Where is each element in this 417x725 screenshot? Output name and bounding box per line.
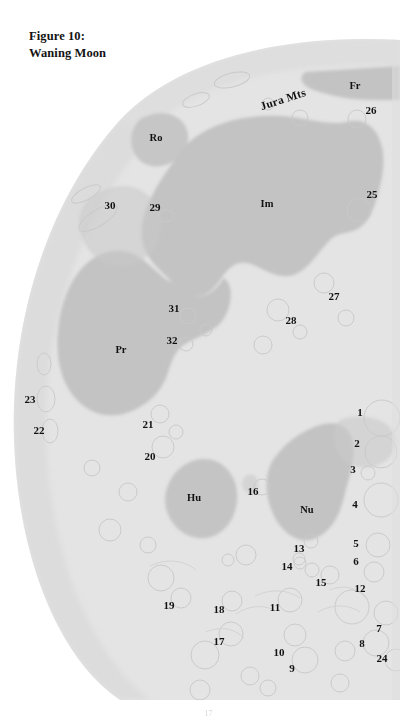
figure-page: Figure 10: Waning Moon — [0, 0, 417, 725]
feature-number-30: 30 — [105, 199, 116, 211]
mare-label-mare-humorum: Hu — [187, 492, 201, 503]
feature-number-19: 19 — [164, 599, 175, 611]
mare-label-mare-imbrium: Im — [261, 198, 274, 209]
feature-number-18: 18 — [214, 603, 225, 615]
feature-number-26: 26 — [366, 104, 377, 116]
feature-number-21: 21 — [143, 418, 154, 430]
mare-label-sinus-roris: Ro — [150, 132, 163, 143]
mare-label-mare-frigoris: Fr — [349, 80, 360, 91]
feature-number-7: 7 — [376, 622, 382, 634]
feature-number-31: 31 — [169, 302, 180, 314]
feature-number-28: 28 — [286, 314, 297, 326]
feature-number-10: 10 — [274, 646, 285, 658]
feature-number-1: 1 — [357, 406, 363, 418]
feature-number-9: 9 — [289, 662, 295, 674]
feature-number-16: 16 — [248, 485, 259, 497]
feature-number-14: 14 — [282, 560, 293, 572]
feature-number-23: 23 — [25, 393, 36, 405]
feature-number-20: 20 — [145, 450, 156, 462]
mare-label-mare-nubium: Nu — [300, 504, 313, 515]
feature-number-6: 6 — [353, 555, 359, 567]
film-grain-overlay — [0, 0, 417, 700]
lunar-disk-illustration — [0, 0, 417, 700]
feature-number-13: 13 — [294, 542, 305, 554]
feature-number-22: 22 — [34, 424, 45, 436]
feature-number-32: 32 — [167, 334, 178, 346]
feature-number-11: 11 — [270, 601, 280, 613]
feature-number-12: 12 — [355, 582, 366, 594]
feature-number-25: 25 — [367, 188, 378, 200]
feature-number-27: 27 — [329, 290, 340, 302]
feature-number-15: 15 — [316, 576, 327, 588]
feature-number-24: 24 — [377, 652, 388, 664]
feature-number-4: 4 — [352, 498, 358, 510]
feature-number-17: 17 — [214, 635, 225, 647]
moon-disk-surface — [0, 0, 417, 700]
moon-plate — [0, 0, 417, 700]
page-number: 17 — [205, 709, 213, 718]
feature-number-8: 8 — [359, 637, 365, 649]
feature-number-5: 5 — [353, 537, 359, 549]
feature-number-29: 29 — [150, 201, 161, 213]
mare-label-oceanus-procellarum: Pr — [115, 344, 126, 355]
feature-number-3: 3 — [350, 463, 356, 475]
feature-number-2: 2 — [354, 437, 360, 449]
